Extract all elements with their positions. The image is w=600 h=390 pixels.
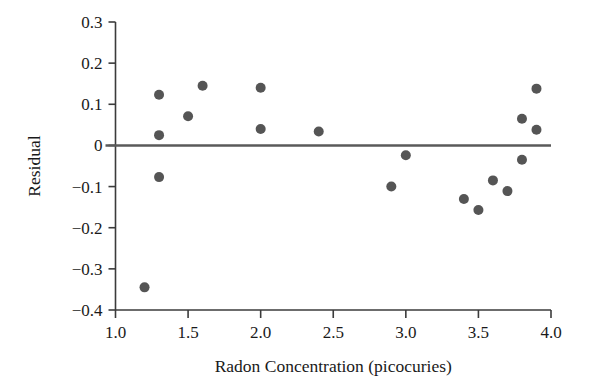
y-tick-label: 0.3 [81, 13, 102, 32]
x-axis-title: Radon Concentration (picocuries) [215, 356, 452, 376]
data-point [517, 114, 527, 124]
data-point [517, 155, 527, 165]
data-point [154, 90, 164, 100]
data-point [256, 83, 266, 93]
y-tick-label: −0.4 [72, 301, 103, 320]
y-tick-label: −0.1 [72, 178, 103, 197]
x-tick-label: 4.0 [540, 323, 561, 342]
data-point [140, 282, 150, 292]
data-point [531, 125, 541, 135]
data-point [183, 111, 193, 121]
data-point [386, 182, 396, 192]
y-tick-label: −0.3 [72, 260, 103, 279]
data-point [198, 81, 208, 91]
data-point [154, 130, 164, 140]
y-axis-title: Residual [24, 135, 44, 196]
data-point [401, 150, 411, 160]
residual-plot-figure: 0.30.20.10−0.1−0.2−0.3−0.4 1.01.52.02.53… [0, 0, 600, 390]
x-tick-label: 3.5 [468, 323, 489, 342]
data-point [314, 126, 324, 136]
x-tick-label: 2.0 [250, 323, 271, 342]
y-tick-label: 0.2 [81, 54, 102, 73]
data-point [154, 172, 164, 182]
x-tick-label: 1.5 [177, 323, 198, 342]
x-tick-label: 2.5 [323, 323, 344, 342]
scatter-chart: 0.30.20.10−0.1−0.2−0.3−0.4 1.01.52.02.53… [0, 0, 600, 390]
x-tick-label: 1.0 [105, 323, 126, 342]
data-point [459, 194, 469, 204]
data-point [531, 84, 541, 94]
data-point [488, 175, 498, 185]
y-tick-label: −0.2 [72, 219, 103, 238]
data-points-layer [140, 81, 542, 293]
y-axis: 0.30.20.10−0.1−0.2−0.3−0.4 [72, 13, 116, 320]
y-tick-label: 0.1 [81, 95, 102, 114]
axis-labels-layer: Radon Concentration (picocuries)Residual [24, 135, 452, 376]
data-point [473, 205, 483, 215]
x-tick-label: 3.0 [395, 323, 416, 342]
y-tick-label: 0 [94, 136, 103, 155]
x-axis: 1.01.52.02.53.03.54.0 [105, 310, 562, 342]
data-point [256, 124, 266, 134]
plot-area: 0.30.20.10−0.1−0.2−0.3−0.4 1.01.52.02.53… [24, 13, 562, 376]
data-point [502, 186, 512, 196]
